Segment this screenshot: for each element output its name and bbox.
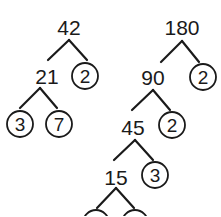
- node-label: 3: [150, 165, 161, 186]
- node-label: 15: [104, 166, 127, 189]
- branch-line: [97, 188, 116, 208]
- branch-line: [48, 40, 69, 60]
- prime-factor-node: 3: [142, 162, 168, 188]
- composite-node: 45: [121, 116, 144, 139]
- node-label: 45: [121, 116, 144, 139]
- branch-line: [182, 41, 199, 62]
- node-label: 42: [57, 16, 80, 39]
- factor-tree-180: 18090245215335: [83, 16, 216, 217]
- node-label: 90: [141, 66, 164, 89]
- prime-factor-node: 3: [7, 111, 33, 137]
- factor-tree-42: 4221237: [7, 16, 98, 138]
- node-label: 2: [198, 67, 209, 88]
- node-label: 2: [80, 66, 91, 87]
- prime-factor-node: 2: [190, 64, 216, 90]
- prime-factor-node: 2: [72, 63, 98, 89]
- node-label: 3: [91, 213, 102, 217]
- composite-node: 21: [35, 65, 58, 88]
- branch-line: [40, 88, 57, 108]
- branch-line: [135, 140, 153, 160]
- branch-line: [132, 90, 153, 110]
- composite-node: 90: [141, 66, 164, 89]
- branch-line: [116, 188, 134, 208]
- node-label: 180: [164, 16, 199, 39]
- branch-line: [114, 140, 135, 160]
- composite-node: 180: [164, 16, 199, 39]
- composite-node: 15: [104, 166, 127, 189]
- prime-factor-node: 7: [46, 111, 72, 137]
- composite-node: 42: [57, 16, 80, 39]
- prime-factor-node: 5: [122, 210, 148, 216]
- node-label: 5: [130, 213, 141, 217]
- branch-line: [153, 90, 170, 110]
- prime-factor-node: 2: [159, 112, 185, 138]
- node-label: 7: [54, 114, 65, 135]
- branch-line: [161, 41, 182, 62]
- node-label: 3: [15, 114, 26, 135]
- factor-tree-diagram: 422123718090245215335: [0, 0, 221, 216]
- node-label: 2: [167, 115, 178, 136]
- branch-line: [69, 40, 87, 60]
- branch-line: [20, 88, 40, 108]
- prime-factor-node: 3: [83, 210, 109, 216]
- node-label: 21: [35, 65, 58, 88]
